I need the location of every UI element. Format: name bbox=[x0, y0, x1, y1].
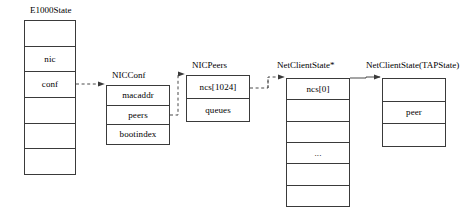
struct-row-peer: peer bbox=[383, 102, 445, 125]
struct-netclientstate-ptr: ncs[0] ... bbox=[286, 78, 350, 207]
caption-netclientstate-ptr: NetClientState* bbox=[277, 61, 335, 70]
caption-nicconf: NICConf bbox=[112, 71, 146, 80]
struct-netclientstate-tap: peer bbox=[382, 78, 446, 147]
struct-row bbox=[383, 124, 445, 146]
struct-row bbox=[25, 149, 75, 174]
struct-row-peers: peers bbox=[107, 106, 169, 126]
caption-nicpeers: NICPeers bbox=[192, 61, 227, 70]
struct-row bbox=[25, 124, 75, 150]
connector-peers-to-nicpeers bbox=[170, 74, 184, 115]
connector-ncs0-to-tapstate bbox=[350, 77, 380, 78]
struct-row bbox=[287, 186, 349, 206]
struct-row-ncs-array: ncs[1024] bbox=[187, 76, 249, 99]
struct-row bbox=[25, 98, 75, 124]
connector-ncs1024-to-netclientstate bbox=[250, 77, 284, 88]
struct-row-queues: queues bbox=[187, 99, 249, 121]
struct-nicpeers: ncs[1024] queues bbox=[186, 75, 250, 122]
struct-row-macaddr: macaddr bbox=[107, 86, 169, 106]
caption-e1000state: E1000State bbox=[30, 6, 72, 15]
struct-e1000state: nic conf bbox=[24, 20, 76, 175]
struct-row bbox=[287, 164, 349, 185]
struct-row bbox=[287, 100, 349, 121]
struct-row bbox=[25, 21, 75, 47]
struct-nicconf: macaddr peers bootindex bbox=[106, 85, 170, 145]
struct-row-nic: nic bbox=[25, 47, 75, 73]
struct-row-conf: conf bbox=[25, 72, 75, 98]
diagram-canvas: E1000State nic conf NICConf macaddr peer… bbox=[0, 0, 472, 220]
struct-row-bootindex: bootindex bbox=[107, 125, 169, 144]
struct-row-ellipsis: ... bbox=[287, 143, 349, 164]
struct-row bbox=[287, 122, 349, 143]
struct-row-ncs0: ncs[0] bbox=[287, 79, 349, 100]
caption-netclientstate-tap: NetClientState(TAPState) bbox=[366, 61, 459, 70]
struct-row bbox=[383, 79, 445, 102]
